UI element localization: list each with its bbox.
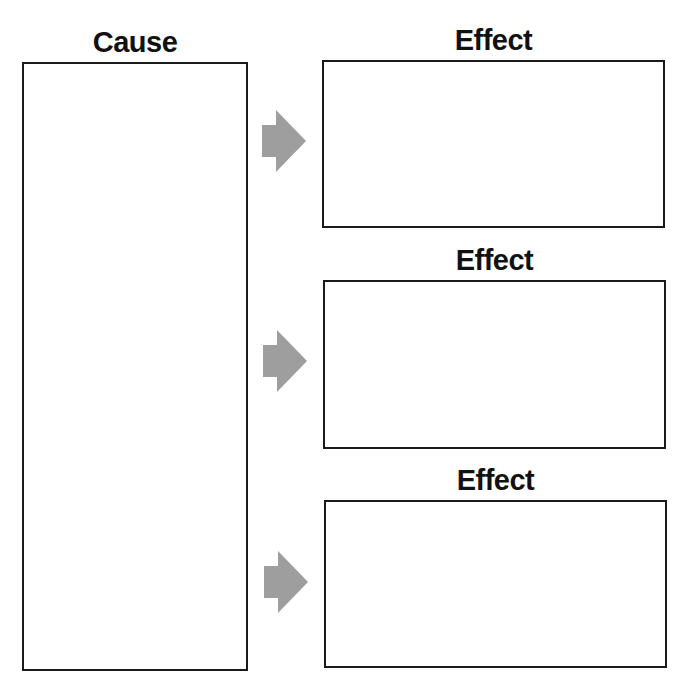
cause-box[interactable]	[22, 62, 248, 671]
arrow-right-icon	[264, 551, 308, 613]
effect-box-2[interactable]	[323, 280, 666, 449]
arrow-right-icon	[262, 110, 306, 172]
arrow-right-icon	[263, 330, 307, 392]
effect-label-1: Effect	[322, 24, 665, 57]
effect-label-3: Effect	[324, 464, 667, 497]
cause-label: Cause	[22, 26, 248, 59]
effect-box-1[interactable]	[322, 60, 665, 228]
effect-box-3[interactable]	[324, 500, 667, 668]
effect-label-2: Effect	[323, 244, 666, 277]
